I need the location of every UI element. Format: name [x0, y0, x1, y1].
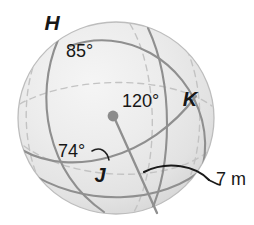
angle-measure-74: 74°	[58, 141, 85, 161]
sphere-figure-container: H K J 85° 120° 74° 7 m	[0, 0, 254, 225]
angle-measure-85: 85°	[66, 41, 93, 61]
sphere-center-dot	[108, 111, 119, 122]
point-label-j: J	[94, 164, 106, 186]
angle-measure-120: 120°	[122, 91, 159, 111]
length-measure-7m: 7 m	[216, 169, 246, 189]
point-label-k: K	[183, 88, 199, 110]
point-label-h: H	[44, 11, 60, 34]
sphere-diagram: H K J 85° 120° 74° 7 m	[0, 0, 254, 225]
